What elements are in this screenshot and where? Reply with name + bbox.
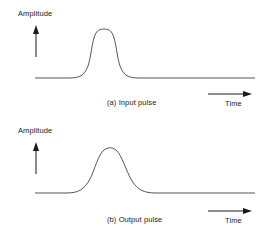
panel-output-pulse: Amplitude (b) Output pulse Time: [0, 117, 264, 233]
pulse-figure: Amplitude (a) Input pulse Time Amplitude: [0, 0, 264, 233]
time-arrow-icon: [208, 208, 252, 214]
x-axis-label-time: Time: [225, 99, 242, 108]
panel-input-pulse: Amplitude (a) Input pulse Time: [0, 0, 264, 116]
x-axis-label-time: Time: [225, 216, 242, 225]
time-arrow-icon: [208, 91, 252, 97]
